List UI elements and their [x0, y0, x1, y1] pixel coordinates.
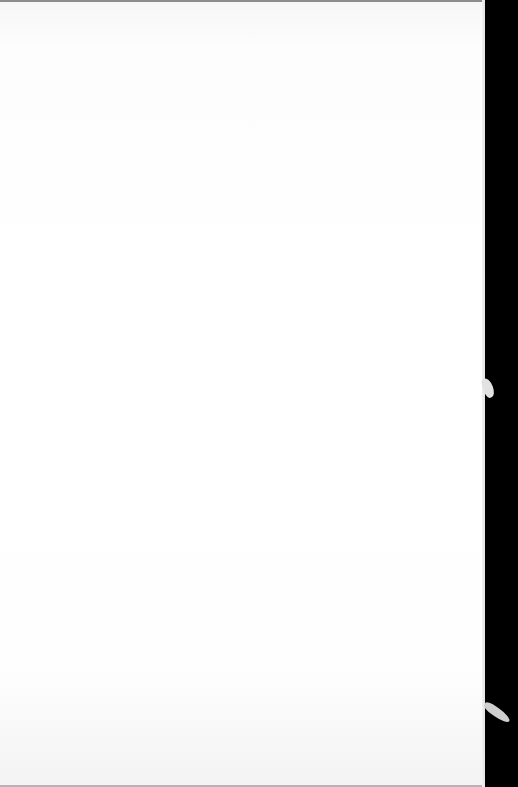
- paper-fragment-right-bottom: [482, 700, 512, 725]
- blank-paper-sheet: [0, 0, 485, 787]
- black-background: [0, 0, 518, 787]
- paper-top-edge-shadow: [0, 0, 485, 2]
